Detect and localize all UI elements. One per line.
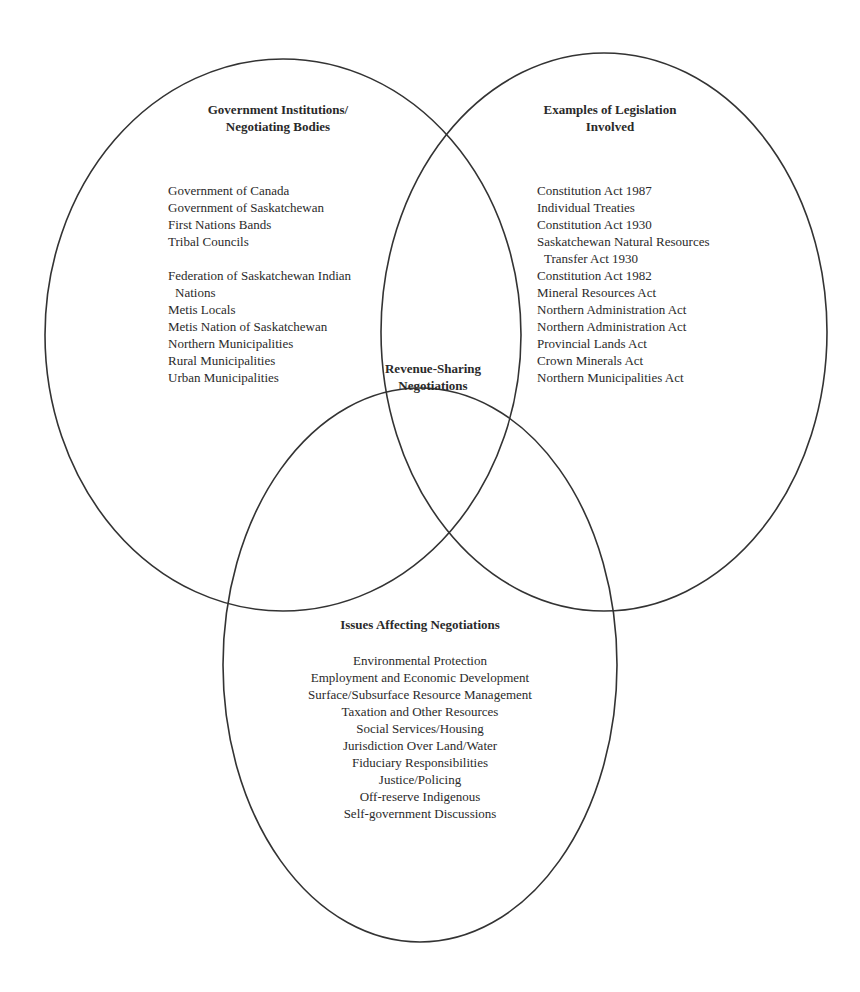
list-item: Environmental Protection [270,652,570,669]
list-item: Tribal Councils [168,233,351,250]
list-item: Saskatchewan Natural Resources [537,233,710,250]
legislation-title-line-2: Involved [520,118,700,135]
list-item: Nations [168,284,351,301]
list-item: Self-government Discussions [270,805,570,822]
list-item: Individual Treaties [537,199,710,216]
list-item: Constitution Act 1930 [537,216,710,233]
legislation-list: Constitution Act 1987 Individual Treatie… [537,182,710,386]
list-item: Northern Municipalities Act [537,369,710,386]
list-item: Northern Administration Act [537,301,710,318]
list-item: Provincial Lands Act [537,335,710,352]
list-item: Fiduciary Responsibilities [270,754,570,771]
government-title: Government Institutions/ Negotiating Bod… [168,101,388,135]
list-item: Social Services/Housing [270,720,570,737]
government-list: Government of Canada Government of Saska… [168,182,351,386]
list-item: Rural Municipalities [168,352,351,369]
list-item: Off-reserve Indigenous [270,788,570,805]
list-item: Metis Locals [168,301,351,318]
legislation-title: Examples of Legislation Involved [520,101,700,135]
intersection-label: Revenue-Sharing Negotiations [358,360,508,394]
venn-diagram [0,0,860,992]
issues-title-line-1: Issues Affecting Negotiations [270,616,570,633]
list-item: Constitution Act 1987 [537,182,710,199]
issues-title: Issues Affecting Negotiations [270,616,570,633]
list-item: Federation of Saskatchewan Indian [168,267,351,284]
list-item: Northern Municipalities [168,335,351,352]
list-item: Jurisdiction Over Land/Water [270,737,570,754]
list-item: Taxation and Other Resources [270,703,570,720]
list-item: Metis Nation of Saskatchewan [168,318,351,335]
intersection-title-line-1: Revenue-Sharing [358,360,508,377]
issues-list: Environmental Protection Employment and … [270,652,570,822]
list-item: Urban Municipalities [168,369,351,386]
list-item: Mineral Resources Act [537,284,710,301]
list-item: Government of Saskatchewan [168,199,351,216]
government-title-line-1: Government Institutions/ [168,101,388,118]
legislation-title-line-1: Examples of Legislation [520,101,700,118]
list-item: Crown Minerals Act [537,352,710,369]
list-item: Transfer Act 1930 [537,250,710,267]
government-title-line-2: Negotiating Bodies [168,118,388,135]
list-item: Constitution Act 1982 [537,267,710,284]
list-item: Surface/Subsurface Resource Management [270,686,570,703]
list-item: Northern Administration Act [537,318,710,335]
list-item: First Nations Bands [168,216,351,233]
list-item: Justice/Policing [270,771,570,788]
list-item: Employment and Economic Development [270,669,570,686]
intersection-title-line-2: Negotiations [358,377,508,394]
list-item: Government of Canada [168,182,351,199]
